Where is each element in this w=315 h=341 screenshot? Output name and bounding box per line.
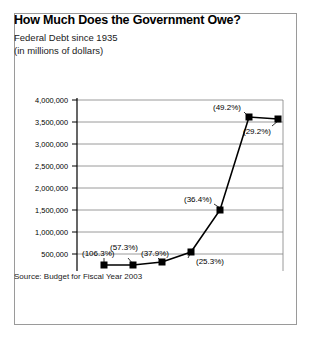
data-point-2005 [275,116,282,123]
data-point-1945 [101,262,108,269]
chart-subtitle-units: (in millions of dollars) [14,45,103,56]
data-point-1985 [217,207,224,214]
line-chart-plot: 4,000,000 3,500,000 3,000,000 2,500,000 … [0,66,315,271]
data-point-1995 [246,114,253,121]
data-point-1975 [188,249,195,256]
data-label-1995: (49.2%) [213,103,241,112]
y-tick-label-1000000: 1,000,000 [35,228,68,237]
data-point-1965 [159,259,166,266]
data-label-1975: (25.3%) [196,257,224,266]
data-point-1955 [130,262,137,269]
chart-subtitle-primary: Federal Debt since 1935 [14,32,118,43]
y-tick-label-3500000: 3,500,000 [35,118,68,127]
y-tick-label-1500000: 1,500,000 [35,206,68,215]
data-label-1965: (37.9%) [141,249,169,258]
page-title: How Much Does the Government Owe? [14,13,241,27]
y-tick-label-4000000: 4,000,000 [35,96,68,105]
source-note: Source: Budget for Fiscal Year 2003 [14,272,142,281]
data-label-2005: (29.2%) [243,127,271,136]
data-label-1955: (57.3%) [110,243,138,252]
y-tick-label-3000000: 3,000,000 [35,140,68,149]
y-tick-label-2000000: 2,000,000 [35,184,68,193]
data-label-1985: (36.4%) [184,195,212,204]
y-tick-label-500000: 500,000 [41,250,68,259]
y-tick-label-2500000: 2,500,000 [35,162,68,171]
